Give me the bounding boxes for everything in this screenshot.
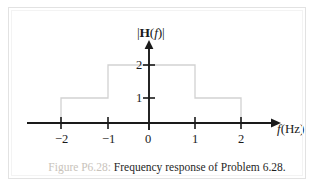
x-axis-label: f(Hz): [277, 122, 304, 135]
y-tick-label-1: 1: [136, 92, 142, 105]
x-tick-label-pos1: 1: [192, 133, 198, 146]
x-tick-label-neg2: −2: [55, 133, 68, 146]
y-axis-label: |H(f)|: [137, 26, 165, 40]
caption-figure-number: Figure P6.28:: [48, 161, 111, 173]
figure-caption: Figure P6.28: Frequency response of Prob…: [9, 160, 316, 175]
caption-description: Frequency response of Problem 6.28.: [114, 161, 286, 173]
x-tick-label-neg1: −1: [102, 133, 115, 146]
y-axis-label-bar-right: |: [162, 25, 165, 40]
y-axis-arrow-icon: [145, 40, 154, 49]
figure-page: |H(f)| f(Hz) −2 −1 0 1 2 1 2 Figure P6.2…: [0, 0, 316, 188]
x-axis-label-unit: (Hz): [281, 121, 305, 136]
figure-frame: |H(f)| f(Hz) −2 −1 0 1 2 1 2 Figure P6.2…: [8, 7, 306, 179]
x-tick-label-zero: 0: [145, 133, 151, 146]
plot-area: |H(f)| f(Hz) −2 −1 0 1 2 1 2: [9, 8, 316, 158]
y-tick-label-2: 2: [136, 59, 142, 72]
magnitude-staircase-curve: [61, 65, 241, 123]
x-tick-label-pos2: 2: [238, 133, 244, 146]
y-axis-label-H: H: [140, 25, 150, 40]
